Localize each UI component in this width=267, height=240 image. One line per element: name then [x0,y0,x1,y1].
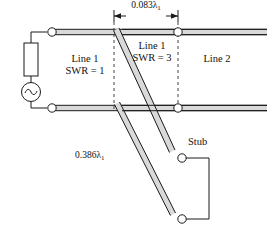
line1-left-swr: SWR = 1 [54,65,116,77]
stub-label-text: Stub [188,136,207,147]
dimension-arrowhead-left-icon [114,13,121,18]
stub-termination [186,158,209,219]
line1-mid-name: Line 1 [124,40,180,52]
source-top-terminal [48,28,56,36]
line2-top-terminal [174,28,182,36]
line2-label: Line 2 [190,53,244,65]
bottom-conductor-fill [52,105,267,110]
stub-top-terminal [178,154,186,162]
stub-length-subscript: 1 [101,154,105,162]
line1-left-label: Line 1 SWR = 1 [54,53,116,77]
dimension-label-text: 0.083 [131,0,152,10]
line1-mid-swr: SWR = 3 [124,52,180,64]
source-branch [22,32,48,108]
top-conductor-fill [52,29,267,34]
stub-length-label: 0.386λ1 [75,150,133,162]
figure-canvas [0,0,267,240]
dimension-arrowhead-right-icon [171,13,178,18]
line1-mid-label: Line 1 SWR = 3 [124,40,180,64]
bottom-conductor [52,105,267,110]
line2-bottom-terminal [174,104,182,112]
dimension-label: 0.083λ1 [114,0,178,12]
stub-length-value: 0.386 [75,150,96,160]
line1-left-name: Line 1 [54,53,116,65]
dimension-label-subscript: 1 [157,4,161,12]
source-bottom-terminal [48,104,56,112]
stub-label: Stub [188,136,234,148]
stub-bottom-terminal [178,215,186,223]
resistor-icon [24,43,38,76]
line2-name: Line 2 [190,53,244,65]
top-conductor [52,29,267,34]
dimension-line-group [114,10,178,22]
transmission-line-figure: 0.083λ1 Line 1 SWR = 1 Line 1 SWR = 3 Li… [0,0,267,240]
